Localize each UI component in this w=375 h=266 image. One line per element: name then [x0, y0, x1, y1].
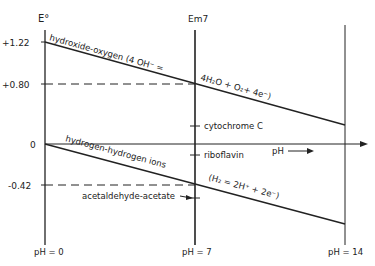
ph14-label: pH = 14	[328, 247, 363, 257]
riboflavin-label: riboflavin	[204, 150, 244, 160]
ph-arrow-label: pH	[272, 146, 284, 156]
ph7-label: pH = 7	[182, 247, 212, 257]
hydrogen-label: hydrogen-hydrogen ions	[64, 133, 167, 170]
y-tick-0.80: +0.80	[2, 80, 30, 90]
oxygen-label: hydroxide-oxygen (4 OH⁻ =	[48, 32, 164, 73]
ph0-label: pH = 0	[34, 247, 64, 257]
y-tick-0: 0	[30, 140, 36, 150]
hydrogen-equation: (H₂ = 2H⁺ + 2e⁻)	[207, 172, 280, 201]
y-tick-minus0.42: -0.42	[8, 181, 31, 191]
redox-potential-diagram: E° Em7 +1.22 +0.80 0 -0.42 hydroxide-oxy…	[0, 0, 375, 266]
acetaldehyde-label: acetaldehyde-acetate	[82, 191, 175, 201]
cytochrome-label: cytochrome C	[204, 121, 263, 131]
oxygen-equation: 4H₂O + O₂+ 4e⁻)	[199, 72, 272, 101]
e0-title: E°	[38, 13, 49, 24]
em7-title: Em7	[188, 14, 208, 24]
y-tick-1.22: +1.22	[2, 38, 30, 48]
